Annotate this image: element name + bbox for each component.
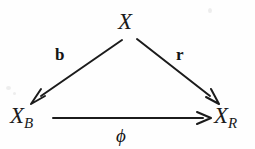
node-x-r-subscript: R bbox=[228, 115, 237, 131]
edge-label-r: r bbox=[176, 46, 184, 63]
edge-label-phi: ϕ bbox=[116, 126, 126, 145]
node-x-base: X bbox=[118, 9, 132, 34]
arrowhead-left-diagonal bbox=[31, 89, 45, 104]
node-x-b-base: X bbox=[10, 103, 24, 128]
edge-label-b: b bbox=[55, 46, 64, 63]
node-x-b: XB bbox=[10, 104, 33, 127]
edge-line-left-diagonal bbox=[41, 40, 122, 96]
node-x-r-base: X bbox=[214, 103, 228, 128]
edge-line-right-diagonal bbox=[137, 39, 210, 96]
node-x-r: XR bbox=[214, 104, 237, 127]
arrowhead-right-diagonal bbox=[206, 89, 219, 104]
node-x: X bbox=[118, 10, 132, 33]
commutative-diagram-figure: X XB XR b r ϕ bbox=[0, 0, 255, 149]
node-x-b-subscript: B bbox=[24, 115, 33, 131]
